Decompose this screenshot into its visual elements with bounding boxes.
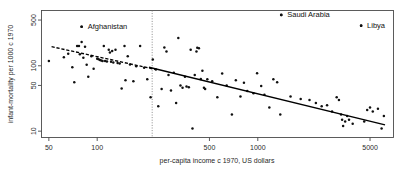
data-point (118, 62, 121, 65)
data-point (344, 120, 347, 123)
data-point (179, 84, 182, 87)
data-point (110, 61, 113, 64)
y-axis-title: infant-mortality per 1000 c 1970 (7, 25, 15, 124)
data-point (204, 88, 207, 91)
data-point (231, 113, 234, 116)
regression-lines (52, 47, 385, 125)
data-point (111, 50, 114, 53)
data-point (123, 45, 126, 48)
annotation-label: Saudi Arabia (287, 10, 330, 19)
data-point (109, 51, 112, 54)
data-point (198, 47, 201, 50)
data-point (256, 72, 259, 75)
data-point (188, 86, 191, 89)
data-point (92, 68, 95, 71)
annotated-data-point (80, 25, 83, 28)
x-tick-label: 1000 (250, 144, 266, 151)
data-point (177, 37, 180, 40)
data-point (326, 104, 329, 107)
x-tick-label: 5000 (362, 144, 378, 151)
data-point (342, 125, 345, 128)
data-point (363, 120, 366, 123)
data-point (189, 49, 192, 52)
data-point (348, 118, 351, 121)
data-point (146, 78, 149, 81)
point-annotations: AfghanistanSaudi ArabiaLibya (80, 10, 386, 31)
data-point (163, 46, 166, 49)
data-point (132, 80, 135, 83)
annotated-data-point (280, 14, 283, 17)
data-point (124, 79, 127, 82)
data-point (127, 55, 130, 58)
data-point (315, 102, 318, 105)
y-tick-label: 100 (30, 60, 37, 72)
data-point (206, 78, 209, 81)
data-point (201, 69, 204, 72)
y-tick-label: 500 (30, 14, 37, 26)
data-point (112, 61, 115, 64)
data-point (272, 78, 275, 81)
data-point (79, 53, 82, 56)
data-point (260, 85, 263, 88)
data-point (103, 45, 106, 48)
data-point (157, 105, 160, 108)
data-point (221, 72, 224, 75)
data-point (106, 60, 109, 63)
data-point (195, 50, 198, 53)
data-point (191, 127, 194, 130)
data-point (377, 108, 380, 111)
data-point (299, 98, 302, 101)
data-point (80, 41, 83, 44)
data-point (114, 49, 117, 52)
data-point (372, 110, 375, 113)
data-point (366, 109, 369, 112)
data-point (193, 74, 196, 77)
data-point (63, 56, 66, 59)
data-point (120, 87, 123, 90)
data-point (320, 105, 323, 108)
data-point (78, 45, 81, 48)
data-point (152, 58, 155, 61)
data-point (71, 66, 74, 69)
data-point (160, 88, 163, 91)
data-point (107, 49, 110, 52)
data-point (216, 96, 219, 99)
data-point (380, 127, 383, 130)
data-point (185, 85, 188, 88)
x-tick-label: 500 (204, 144, 216, 151)
x-tick-label: 50 (45, 144, 53, 151)
data-point (84, 46, 87, 49)
data-point (289, 95, 292, 98)
regression-dashed-segment (52, 47, 156, 70)
data-point (243, 82, 246, 85)
data-point (239, 95, 242, 98)
data-point (101, 60, 104, 63)
x-tick-label: 100 (91, 144, 103, 151)
data-point (181, 87, 184, 90)
data-point (85, 63, 88, 66)
data-point (338, 99, 341, 102)
annotated-data-point (360, 24, 363, 27)
data-point (341, 118, 344, 121)
data-point (383, 115, 386, 118)
data-point (167, 74, 170, 77)
data-point (369, 106, 372, 109)
data-point (73, 81, 76, 84)
data-point (165, 50, 168, 53)
annotation-label: Afghanistan (88, 22, 128, 31)
regression-solid-segment (149, 67, 385, 125)
data-point (82, 56, 85, 59)
y-tick-label: 10 (30, 127, 37, 135)
data-point (351, 122, 354, 125)
annotation-label: Libya (367, 21, 386, 30)
data-point (335, 96, 338, 99)
data-point (276, 81, 279, 84)
data-point (87, 75, 90, 78)
data-point (48, 60, 51, 63)
x-axis-title: per-capita income c 1970, US dollars (160, 157, 275, 165)
data-point (308, 99, 311, 102)
data-point (170, 89, 173, 92)
data-point (268, 106, 271, 109)
data-point (149, 96, 152, 99)
y-axis-ticks: 1050100500 (30, 14, 41, 135)
